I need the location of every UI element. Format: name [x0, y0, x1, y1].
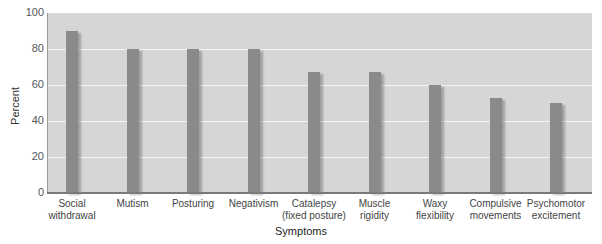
- y-tick-label: 0: [8, 186, 44, 198]
- plot-area: [48, 13, 592, 193]
- bar: [127, 49, 139, 193]
- bar: [369, 72, 381, 193]
- x-tick-label: Psychomotorexcitement: [511, 198, 601, 222]
- bar: [248, 49, 260, 193]
- y-tick-label: 80: [8, 42, 44, 54]
- x-axis-title: Symptoms: [0, 225, 602, 237]
- x-tick-label-line: excitement: [511, 210, 601, 222]
- y-tick-label: 60: [8, 78, 44, 90]
- bar: [187, 49, 199, 193]
- x-axis-line: [47, 192, 592, 194]
- bar: [429, 85, 441, 193]
- x-tick-label-line: Psychomotor: [511, 198, 601, 210]
- y-tick-label: 100: [8, 6, 44, 18]
- bar: [66, 31, 78, 193]
- y-axis-line: [47, 13, 48, 194]
- bar: [550, 103, 562, 193]
- y-tick-label: 20: [8, 150, 44, 162]
- y-tick-label: 40: [8, 114, 44, 126]
- bar: [308, 72, 320, 193]
- x-tick-label-line: withdrawal: [27, 210, 117, 222]
- bar: [490, 98, 502, 193]
